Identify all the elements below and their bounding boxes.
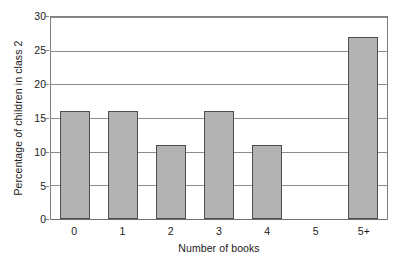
y-tick-label: 0 [2, 214, 46, 224]
x-axis-title: Number of books [50, 242, 388, 255]
bar-slot [147, 17, 195, 219]
y-axis-tick-labels: 30 25 20 15 10 5 0 [0, 16, 46, 220]
x-tick-label: 4 [243, 224, 291, 238]
y-tick-label: 10 [2, 147, 46, 157]
y-tick-label: 25 [2, 45, 46, 55]
bar-slot [339, 17, 387, 219]
bar[interactable] [204, 111, 234, 219]
y-tick-label: 5 [2, 181, 46, 191]
y-tick-mark [44, 186, 49, 187]
bar-slot [195, 17, 243, 219]
x-tick-label: 3 [195, 224, 243, 238]
gridline [51, 219, 387, 220]
y-tick-mark [44, 16, 49, 17]
y-tick-label: 15 [2, 113, 46, 123]
bar-slot [51, 17, 99, 219]
bar-slot [99, 17, 147, 219]
y-tick-mark [44, 50, 49, 51]
bar-slot [291, 17, 339, 219]
y-tick-mark [44, 84, 49, 85]
bar-chart-figure: Percentage of children in class 2 30 25 … [0, 0, 405, 264]
bar[interactable] [348, 37, 378, 219]
x-tick-label: 5+ [340, 224, 388, 238]
bar-slot [243, 17, 291, 219]
x-tick-label: 0 [50, 224, 98, 238]
plot-area [50, 16, 388, 220]
x-tick-label: 1 [98, 224, 146, 238]
bar[interactable] [60, 111, 90, 219]
y-tick-mark [44, 118, 49, 119]
y-tick-label: 20 [2, 79, 46, 89]
x-tick-label: 2 [147, 224, 195, 238]
bars-layer [51, 17, 387, 219]
y-tick-mark [44, 152, 49, 153]
y-tick-label: 30 [2, 11, 46, 21]
bar[interactable] [252, 145, 282, 219]
x-tick-label: 5 [291, 224, 339, 238]
bar[interactable] [156, 145, 186, 219]
bar[interactable] [108, 111, 138, 219]
x-axis-tick-labels: 0123455+ [50, 224, 388, 238]
y-tick-mark [44, 219, 49, 220]
